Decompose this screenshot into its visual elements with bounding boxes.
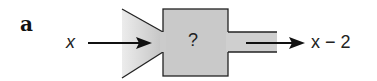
output-label: x − 2: [311, 32, 351, 53]
operation-label: ?: [188, 30, 198, 51]
